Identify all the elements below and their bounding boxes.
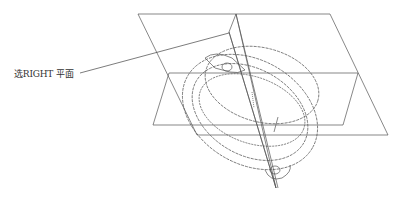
part-outer-ring (162, 31, 339, 193)
part-bore (189, 60, 315, 160)
cad-drawing (0, 0, 399, 199)
callout-label: 选RIGHT 平面 (14, 67, 73, 80)
bottom-hole (270, 166, 280, 174)
right-plane (229, 14, 276, 188)
top-plane (138, 14, 388, 135)
top-hole (222, 63, 232, 71)
